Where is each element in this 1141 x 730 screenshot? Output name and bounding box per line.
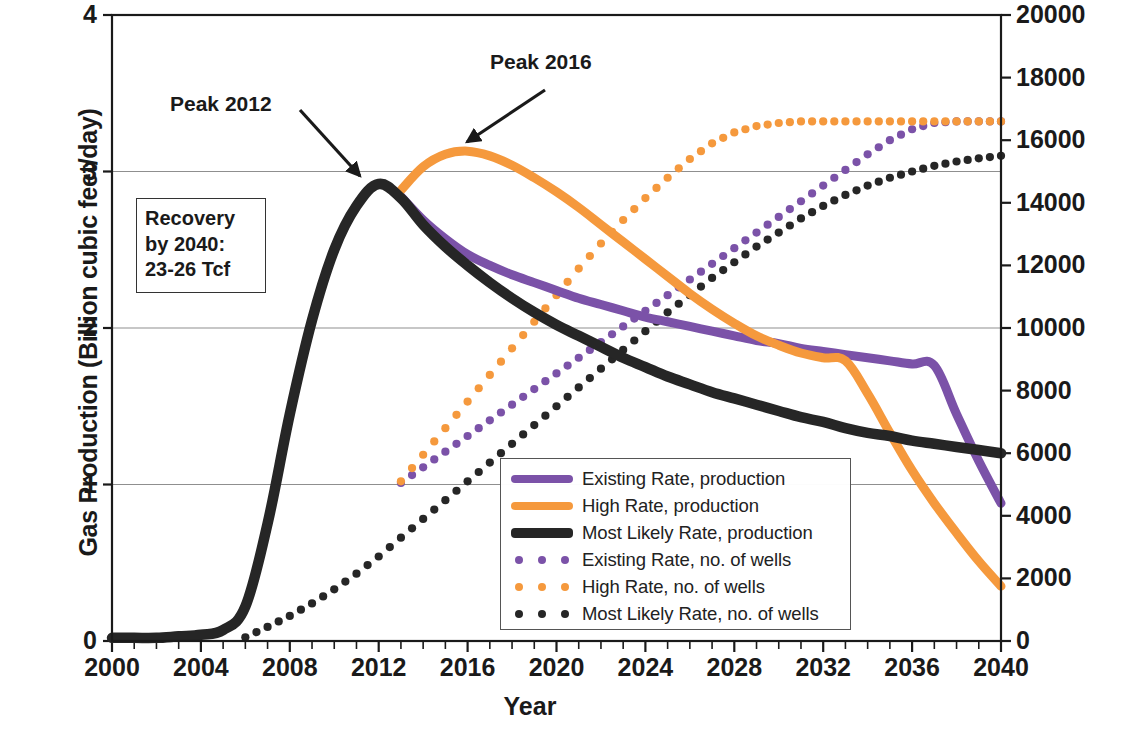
legend-item[interactable]: High Rate, production [501,492,850,519]
legend-item[interactable]: High Rate, no. of wells [501,573,850,600]
legend-swatch-icon [511,551,573,569]
legend-swatch-icon [511,470,573,488]
recovery-line-3: 23-26 Tcf [145,257,257,283]
recovery-line-1: Recovery [145,206,257,232]
recovery-note-box: Recovery by 2040: 23-26 Tcf [136,198,266,293]
legend-swatch-icon [511,524,573,542]
legend-swatch-icon [511,605,573,623]
recovery-line-2: by 2040: [145,232,257,258]
legend-swatch-icon [511,578,573,596]
legend-item-label: Most Likely Rate, no. of wells [582,603,819,625]
legend-item-label: High Rate, production [582,495,759,517]
annotation-peak-2016: Peak 2016 [490,50,592,74]
legend-item-label: Existing Rate, production [582,468,785,490]
legend-swatch-icon [511,497,573,515]
legend-item-label: Existing Rate, no. of wells [582,549,791,571]
legend-item[interactable]: Most Likely Rate, production [501,519,850,546]
legend-item-label: High Rate, no. of wells [582,576,765,598]
legend-item[interactable]: Existing Rate, production [501,465,850,492]
legend-item[interactable]: Existing Rate, no. of wells [501,546,850,573]
chart-legend: Existing Rate, productionHigh Rate, prod… [500,458,851,630]
legend-item[interactable]: Most Likely Rate, no. of wells [501,600,850,627]
legend-item-label: Most Likely Rate, production [582,522,813,544]
gas-production-chart: Gas Production (Billion cubic feet/day) … [0,0,1141,730]
annotation-peak-2012: Peak 2012 [170,92,272,116]
